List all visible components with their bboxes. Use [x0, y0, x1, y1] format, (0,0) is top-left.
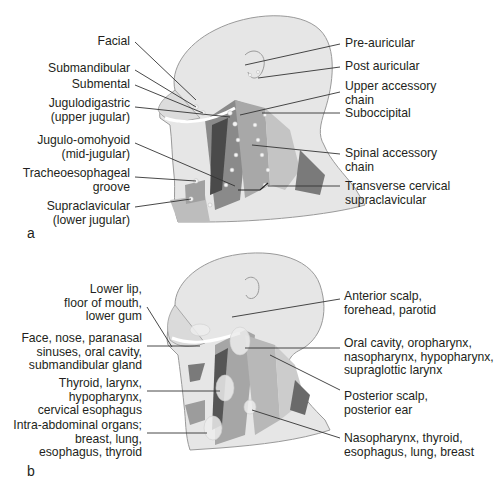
label-thyroid-larynx-hypopharynx: Thyroid, larynx, hypopharynx, cervical e…: [38, 377, 142, 418]
label-suboccipital: Suboccipital: [345, 107, 411, 121]
label-oral-cavity-oropharynx: Oral cavity, oropharynx, nasopharynx, hy…: [344, 337, 494, 378]
label-intra-abdominal-organs: Intra-abdominal organs; breast, lung, es…: [13, 419, 142, 460]
label-transverse-cervical-supraclavicular: Transverse cervical supraclavicular: [345, 180, 450, 207]
label-submandibular: Submandibular: [48, 62, 130, 76]
label-submental: Submental: [72, 78, 130, 92]
label-post-auricular: Post auricular: [345, 60, 420, 74]
label-upper-accessory-chain: Upper accessory chain: [345, 80, 436, 107]
label-pre-auricular: Pre-auricular: [345, 37, 415, 51]
label-jugulo-omohyoid: Jugulo-omohyoid (mid-jugular): [37, 134, 130, 161]
panel-a-lymph-node-groups: Facial Submandibular Submental Jugulodig…: [0, 0, 498, 245]
label-tracheoesophageal-groove: Tracheoesophageal groove: [23, 167, 130, 194]
label-face-nose-paranasal: Face, nose, paranasal sinuses, oral cavi…: [21, 332, 142, 373]
label-posterior-scalp: Posterior scalp, posterior ear: [344, 390, 428, 417]
panel-b-drainage-regions: Lower lip, floor of mouth, lower gum Fac…: [0, 245, 498, 489]
label-jugulodigastric: Jugulodigastric (upper jugular): [49, 97, 130, 124]
panel-letter-b: b: [27, 463, 35, 479]
label-lower-lip-floor-of-mouth: Lower lip, floor of mouth, lower gum: [64, 283, 142, 324]
label-supraclavicular: Supraclavicular (lower jugular): [47, 200, 130, 227]
label-anterior-scalp: Anterior scalp, forehead, parotid: [344, 290, 436, 317]
label-nasopharynx-thyroid: Nasopharynx, thyroid, esophagus, lung, b…: [344, 432, 474, 459]
panel-letter-a: a: [27, 225, 35, 241]
label-spinal-accessory-chain: Spinal accessory chain: [345, 147, 437, 174]
label-facial: Facial: [97, 35, 130, 49]
